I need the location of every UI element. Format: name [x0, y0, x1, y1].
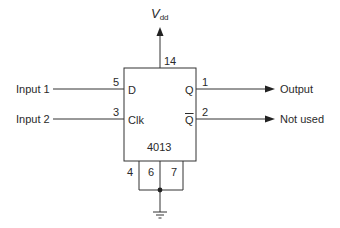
pin-3-number: 3 [113, 106, 119, 118]
pin-5-number: 5 [113, 76, 119, 88]
pin-2-number: 2 [202, 106, 208, 118]
d-pin-label: D [128, 84, 136, 96]
vdd-arrow-icon [157, 27, 164, 36]
q-pin-label: Q [185, 84, 194, 96]
pin-6-number: 6 [148, 166, 154, 178]
pin-14-number: 14 [164, 55, 176, 67]
input-2-label: Input 2 [16, 113, 50, 125]
qbar-pin-label: Q [185, 114, 194, 126]
junction-dot-icon [158, 188, 163, 193]
not-used-label: Not used [280, 113, 324, 125]
output-arrow-icon [265, 86, 275, 93]
vdd-label: Vdd [151, 6, 169, 22]
pin-1-number: 1 [202, 76, 208, 88]
input-1-label: Input 1 [16, 83, 50, 95]
not-used-arrow-icon [265, 116, 275, 123]
output-label: Output [280, 83, 313, 95]
pin-7-number: 7 [171, 166, 177, 178]
clk-pin-label: Clk [128, 114, 144, 126]
chip-part-number: 4013 [147, 141, 171, 153]
pin-4-number: 4 [127, 166, 133, 178]
